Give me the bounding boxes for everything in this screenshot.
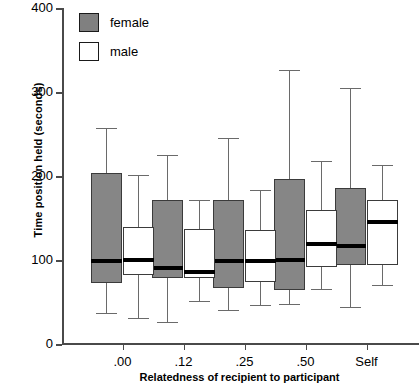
whisker-cap-upper <box>372 165 393 166</box>
x-tick-mark-3 <box>306 344 308 350</box>
legend-entry-male: male <box>79 42 149 61</box>
x-tick-label-3: .50 <box>276 354 336 369</box>
legend-entry-female: female <box>79 13 149 32</box>
y-tick-label: 300 <box>13 84 53 99</box>
whisker-lower <box>382 265 383 285</box>
y-tick-label: 400 <box>13 0 53 15</box>
x-tick-label-2: .25 <box>215 354 275 369</box>
y-tick-label: 100 <box>13 252 53 267</box>
chart-legend: female male <box>79 13 149 71</box>
y-axis-title: Time position held (seconds) <box>32 30 44 290</box>
legend-label-male: male <box>110 44 138 59</box>
x-tick-mark-2 <box>245 344 247 350</box>
x-tick-label-1: .12 <box>154 354 214 369</box>
x-tick-mark-4 <box>367 344 369 350</box>
boxplot-figure: Time position held (seconds) Relatedness… <box>0 0 419 383</box>
plot-area: 0100200300400 .00.12.25.50Self female ma… <box>62 8 419 344</box>
median-line <box>367 220 398 224</box>
whisker-cap-lower <box>372 285 393 286</box>
legend-swatch-female-icon <box>79 13 99 32</box>
whisker-upper <box>382 165 383 199</box>
x-axis-title: Relatedness of recipient to participant <box>60 371 419 383</box>
x-tick-mark-1 <box>184 344 186 350</box>
x-tick-label-4: Self <box>337 354 397 369</box>
y-tick-label: 0 <box>13 336 53 351</box>
y-tick-label: 200 <box>13 168 53 183</box>
legend-label-female: female <box>110 15 149 30</box>
legend-swatch-male-icon <box>79 42 99 61</box>
x-tick-label-0: .00 <box>93 354 153 369</box>
y-tick-mark <box>56 344 62 346</box>
box-rect <box>367 200 398 266</box>
x-tick-mark-0 <box>123 344 125 350</box>
